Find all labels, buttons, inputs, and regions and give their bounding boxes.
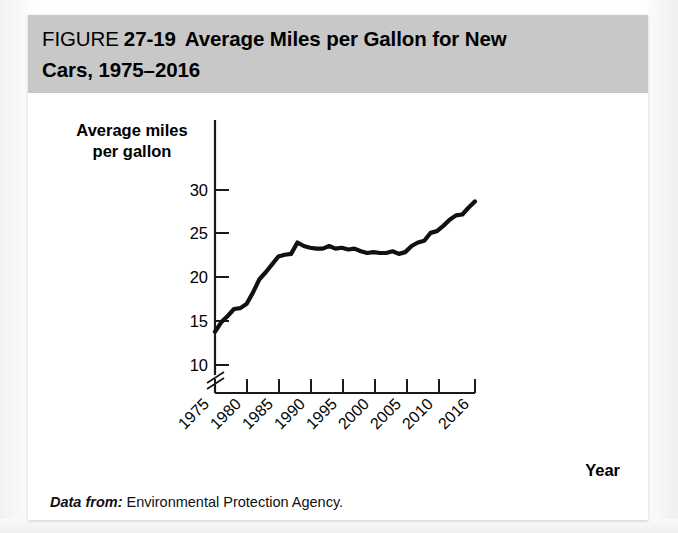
figure-box: FIGURE27-19Average Miles per Gallon for … [28, 15, 648, 520]
page-edge-right [648, 0, 678, 533]
scanned-page: FIGURE27-19Average Miles per Gallon for … [0, 0, 678, 533]
x-tick-label-1990: 1990 [271, 395, 308, 432]
y-tick-marks [215, 190, 229, 365]
x-tick-label-1985: 1985 [239, 395, 276, 432]
mpg-data-line [215, 201, 475, 331]
plot-panel: Average miles per gallon [38, 93, 638, 490]
x-tick-label-2016: 2016 [435, 395, 472, 432]
x-tick-label-2005: 2005 [367, 395, 404, 432]
source-body: Environmental Protection Agency. [127, 494, 344, 510]
x-tick-label-2000: 2000 [335, 395, 372, 432]
page-edge-bottom [0, 519, 678, 533]
source-lead: Data from: [50, 494, 123, 510]
x-tick-marks [215, 379, 475, 393]
y-tick-label-10: 10 [190, 356, 208, 374]
x-tick-label-2010: 2010 [399, 395, 436, 432]
x-tick-label-1995: 1995 [303, 395, 340, 432]
y-tick-label-20: 20 [190, 268, 208, 286]
figure-title: FIGURE27-19Average Miles per Gallon for … [42, 23, 634, 85]
figure-label: FIGURE [42, 27, 119, 50]
x-tick-label-1975: 1975 [175, 395, 212, 432]
figure-number: 27-19 [124, 27, 176, 50]
chart-plot: 30 25 20 15 10 1975 [38, 93, 638, 490]
figure-source-caption: Data from: Environmental Protection Agen… [28, 490, 648, 520]
x-axis-label: Year [585, 461, 620, 480]
x-tick-label-1980: 1980 [207, 395, 244, 432]
y-tick-label-25: 25 [190, 224, 208, 242]
page-edge-left [0, 0, 28, 533]
y-tick-label-30: 30 [190, 181, 208, 199]
y-tick-label-15: 15 [190, 312, 208, 330]
figure-header-band: FIGURE27-19Average Miles per Gallon for … [28, 15, 648, 93]
